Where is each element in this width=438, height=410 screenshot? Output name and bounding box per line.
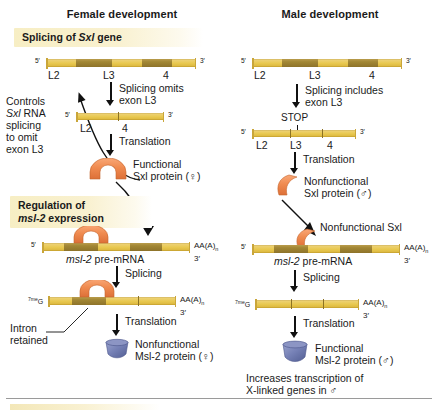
exon-label-4: 4 bbox=[327, 140, 333, 152]
side-note-gene: Sxl bbox=[6, 107, 21, 119]
exon-label-l2: L2 bbox=[80, 123, 92, 135]
polyA-tail-label: AA(A)n 3′ bbox=[180, 295, 204, 317]
female-msl2-pre-mrna: 5′ AA(A)n 3′ bbox=[42, 242, 190, 252]
intron-segment bbox=[130, 243, 162, 251]
functional-msl2-protein-icon bbox=[281, 340, 309, 367]
male-outcome-text: Increases transcription of X-linked gene… bbox=[246, 372, 363, 396]
female-protein-msl2-label: Nonfunctional Msl-2 protein (♀) bbox=[135, 338, 213, 362]
premrna-gene: msl-2 bbox=[66, 253, 92, 265]
intron-note-line-2: retained bbox=[10, 334, 48, 346]
protein-line-1: Nonfunctional bbox=[304, 175, 371, 187]
female-sxl-mature-mrna: 5′ 3′ bbox=[76, 112, 164, 122]
outcome-line-1: Increases transcription of bbox=[246, 372, 363, 384]
male-msl2-mature-mrna: 7meG AA(A)n 3′ bbox=[255, 299, 359, 309]
female-step-splicing-label: Splicing omits exon L3 bbox=[119, 82, 184, 106]
arrow-translation-female-2 bbox=[112, 314, 121, 336]
intron-segment bbox=[64, 243, 98, 251]
arrow-splicing-male bbox=[292, 84, 301, 108]
rna-bar bbox=[48, 297, 176, 305]
rna-bar bbox=[76, 113, 164, 120]
female-intron-retained-note: Intron retained bbox=[10, 322, 48, 346]
rna-bar bbox=[252, 59, 402, 67]
cap-label: 7meG bbox=[28, 296, 43, 305]
female-protein-sxl-label: Functional Sxl protein (♀) bbox=[133, 158, 200, 182]
intron-segment bbox=[142, 59, 172, 67]
exon-label-4: 4 bbox=[122, 123, 128, 135]
male-protein-msl2-label: Functional Msl-2 protein (♂) bbox=[315, 342, 393, 366]
intron-segment bbox=[76, 59, 112, 67]
male-step-splicing-2: Splicing bbox=[303, 272, 340, 284]
three-prime-label: 3′ bbox=[360, 128, 365, 135]
banner-splicing-text-a: Splicing of bbox=[22, 31, 79, 43]
nonfunctional-msl2-protein-icon bbox=[104, 338, 130, 364]
side-note-line-3: splicing bbox=[6, 119, 68, 131]
stop-codon-label: STOP bbox=[281, 112, 308, 124]
side-note-line-1: Controls bbox=[6, 95, 68, 107]
three-prime-label: 3′ bbox=[168, 111, 173, 118]
arrow-translation-female-1 bbox=[106, 134, 115, 156]
premrna-gene: msl-2 bbox=[274, 255, 300, 267]
step-line-1: Splicing includes bbox=[305, 84, 383, 96]
outcome-line-2: X-linked genes in ♂ bbox=[246, 384, 363, 396]
three-prime-label: 3′ bbox=[200, 57, 205, 64]
male-step-translation-2: Translation bbox=[303, 318, 355, 330]
side-note-line-5: exon L3 bbox=[6, 143, 68, 155]
five-prime-label: 5′ bbox=[65, 111, 70, 118]
column-title-male: Male development bbox=[250, 8, 410, 20]
bottom-divider bbox=[6, 398, 432, 399]
figure-canvas: Female development Male development Spli… bbox=[0, 0, 438, 410]
intron-segment bbox=[348, 59, 378, 67]
five-prime-label: 5′ bbox=[35, 57, 40, 64]
protein-line-1: Functional bbox=[315, 342, 393, 354]
male-protein-sxl-label: Nonfunctional Sxl protein (♂) bbox=[304, 175, 371, 199]
female-step-translation-1: Translation bbox=[119, 136, 171, 148]
five-prime-label: 5′ bbox=[241, 243, 246, 250]
five-prime-label: 5′ bbox=[241, 57, 246, 64]
step-line-2: exon L3 bbox=[119, 94, 184, 106]
male-step-splicing-label: Splicing includes exon L3 bbox=[305, 84, 383, 108]
male-sxl-mature-mrna: 5′ 3′ bbox=[252, 129, 356, 139]
banner-regulation-line-1: Regulation of bbox=[18, 199, 146, 212]
bottom-banner-partial bbox=[10, 404, 160, 410]
exon-label-l2: L2 bbox=[254, 70, 266, 82]
arrow-translation-male-2 bbox=[290, 316, 299, 338]
three-prime-label: 3′ bbox=[406, 57, 411, 64]
rna-bar bbox=[252, 130, 356, 137]
banner-splicing-gene: Sxl bbox=[79, 31, 95, 43]
female-side-note: Controls Sxl RNA splicing to omit exon L… bbox=[6, 95, 68, 155]
exon-label-l2: L2 bbox=[256, 140, 268, 152]
intron-segment bbox=[340, 245, 372, 253]
polyA-tail-label: AA(A)n 3′ bbox=[404, 243, 428, 265]
step-line-2: exon L3 bbox=[305, 96, 383, 108]
sxl-bound-icon-female-2 bbox=[78, 280, 116, 298]
five-prime-label: 5′ bbox=[241, 128, 246, 135]
rna-bar bbox=[252, 245, 400, 253]
side-note-line-4: to omit bbox=[6, 131, 68, 143]
column-title-female: Female development bbox=[42, 8, 202, 20]
exon-label-4: 4 bbox=[369, 70, 375, 82]
arrow-splicing-female bbox=[106, 82, 115, 106]
rna-bar bbox=[255, 300, 359, 308]
female-sxl-pre-mrna: 5′ 3′ bbox=[46, 58, 196, 68]
intron-segment-retained bbox=[72, 297, 106, 305]
protein-line-2: Msl-2 protein (♂) bbox=[315, 354, 393, 366]
male-step-translation-1: Translation bbox=[303, 154, 355, 166]
male-sxl-bound-label: Nonfunctional Sxl bbox=[320, 222, 402, 234]
banner-regulation-gene: msl-2 bbox=[18, 212, 45, 224]
female-step-splicing-2: Splicing bbox=[125, 268, 162, 280]
cap-label: 7meG bbox=[235, 299, 250, 308]
female-premrna-label: msl-2 pre-mRNA bbox=[66, 254, 144, 266]
exon-label-l3: L3 bbox=[290, 140, 302, 152]
banner-splicing-text-b: gene bbox=[94, 31, 121, 43]
rna-bar bbox=[46, 59, 196, 67]
intron-retained-leader bbox=[44, 306, 100, 336]
protein-line-1: Nonfunctional bbox=[135, 338, 213, 350]
arrow-splicing-male-2 bbox=[290, 270, 299, 292]
rna-bar bbox=[42, 243, 190, 251]
male-sxl-pre-mrna: 5′ 3′ bbox=[252, 58, 402, 68]
exon-label-l3: L3 bbox=[309, 70, 321, 82]
male-msl2-pre-mrna: 5′ AA(A)n 3′ bbox=[252, 244, 400, 254]
female-step-translation-2: Translation bbox=[125, 316, 177, 328]
banner-regulation-msl2: Regulation of msl-2 expression bbox=[10, 196, 152, 228]
protein-line-1: Functional bbox=[133, 158, 200, 170]
